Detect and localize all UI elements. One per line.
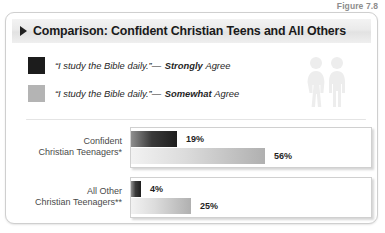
legend-emphasis: Strongly [165, 60, 203, 71]
legend-divider [26, 119, 366, 120]
legend-dash: — [152, 60, 161, 71]
group-label-line1: All Other [12, 186, 122, 198]
bar-value-label: 25% [200, 201, 218, 211]
legend-swatch-light [28, 85, 45, 102]
group-label-line2: Christian Teenagers** [12, 197, 122, 209]
bars-container: 19% 56% [130, 127, 372, 168]
legend-emphasis: Somewhat [165, 88, 212, 99]
person-male-icon [329, 57, 345, 107]
legend-tail: Agree [205, 60, 230, 71]
title-bar: Comparison: Confident Christian Teens an… [12, 19, 371, 43]
bar-somewhat-agree [131, 198, 191, 214]
chart-group-all-other: All Other Christian Teenagers** 4% 25% [12, 175, 372, 219]
chart-group-confident: Confident Christian Teenagers* 19% 56% [12, 125, 372, 169]
legend-item-label: “I study the Bible daily.”— Strongly Agr… [55, 60, 230, 71]
group-label: All Other Christian Teenagers** [12, 186, 130, 209]
legend-swatch-dark [28, 57, 45, 74]
bar-line: 25% [131, 198, 371, 214]
legend-quote: “I study the Bible daily.” [55, 60, 152, 71]
figure-caption: Figure 7.8 [337, 1, 378, 11]
figure-panel: Comparison: Confident Christian Teens an… [5, 12, 378, 224]
legend-dash: — [152, 88, 161, 99]
bar-line: 56% [131, 148, 371, 164]
bar-value-label: 4% [150, 184, 163, 194]
bar-value-label: 56% [274, 151, 292, 161]
bar-value-label: 19% [186, 134, 204, 144]
chart-area: Confident Christian Teenagers* 19% 56% A… [12, 125, 372, 225]
legend-tail: Agree [214, 88, 239, 99]
bar-somewhat-agree [131, 148, 265, 164]
group-label: Confident Christian Teenagers* [12, 136, 130, 159]
legend-quote: “I study the Bible daily.” [55, 88, 152, 99]
people-decoration [305, 55, 351, 111]
bar-strongly-agree [131, 181, 141, 197]
legend-item-label: “I study the Bible daily.”— Somewhat Agr… [55, 88, 239, 99]
bar-line: 19% [131, 131, 371, 147]
bars-container: 4% 25% [130, 177, 372, 218]
group-label-line2: Christian Teenagers* [12, 147, 122, 159]
person-female-icon [308, 57, 325, 107]
triangle-right-icon [20, 26, 27, 36]
group-label-line1: Confident [12, 136, 122, 148]
page-title: Comparison: Confident Christian Teens an… [33, 24, 346, 38]
bar-strongly-agree [131, 131, 177, 147]
bar-line: 4% [131, 181, 371, 197]
